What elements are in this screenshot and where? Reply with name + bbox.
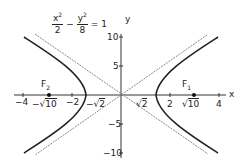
x-axis-label: x [229,90,234,99]
y-tick-neg10: −10 [103,149,122,158]
minus-sign: − [66,19,74,29]
y-axis-label: y [125,15,130,24]
label-neg-sqrt2: −√2 [86,100,105,109]
x-tick-2: 2 [167,100,173,109]
focus-f1-label: F1 [182,80,191,91]
label-sqrt2: √2 [136,100,147,109]
hyperbola-plot [0,0,245,166]
x-tick-neg4: −4 [15,98,28,107]
y-fraction: y2 8 [77,12,88,35]
label-sqrt10: √10 [182,100,199,109]
y-tick-5: 5 [113,62,119,71]
label-neg-sqrt10: −√10 [32,100,57,109]
equals-one: = 1 [91,19,107,29]
y-tick-neg5: −5 [108,120,121,129]
x-tick-4: 4 [216,100,222,109]
equation-label: x2 2 − y2 8 = 1 [52,12,107,35]
x-tick-neg2: −2 [66,98,79,107]
focus-f1-point [192,93,196,97]
focus-f2-point [47,93,51,97]
focus-f2-label: F2 [41,80,50,91]
y-tick-10: 10 [107,33,118,42]
x-fraction: x2 2 [52,12,63,35]
